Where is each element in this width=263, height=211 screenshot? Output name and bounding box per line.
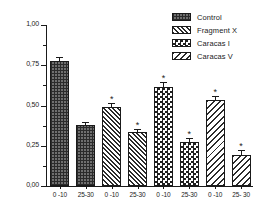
legend-item-fragment-x[interactable]: Fragment X	[172, 24, 237, 36]
legend-item-caracas-i[interactable]: Caracas I	[172, 37, 237, 49]
x-tick-label: 25-30	[181, 191, 197, 198]
x-tick-label: 25-30	[78, 191, 94, 198]
x-tick-label: 0 -10	[156, 191, 170, 198]
legend-swatch-icon	[172, 39, 191, 47]
y-tick-mark	[41, 186, 46, 187]
x-tick-label: 25-30	[130, 191, 146, 198]
bar-caracas-v-0-10	[206, 100, 225, 186]
x-tick-mark	[138, 186, 139, 189]
error-bar-cap	[82, 122, 89, 123]
significance-marker: *	[136, 122, 140, 128]
error-bar-stem	[59, 58, 60, 61]
significance-marker: *	[162, 75, 166, 81]
x-tick-mark	[163, 186, 164, 189]
legend-swatch-icon	[172, 26, 191, 34]
y-tick-label: 0,00	[26, 181, 39, 188]
error-bar-stem	[137, 130, 138, 132]
x-tick-label: 0 -10	[53, 191, 67, 198]
error-bar-stem	[241, 151, 242, 154]
significance-marker: *	[213, 89, 217, 95]
bar-control-25-30	[76, 125, 95, 186]
y-tick-label: 0,50	[26, 101, 39, 108]
chart-legend: ControlFragment XCaracas ICaracas V	[172, 11, 237, 63]
x-tick-mark	[112, 186, 113, 189]
x-tick-mark	[86, 186, 87, 189]
legend-item-label: Fragment X	[197, 26, 237, 35]
error-bar-stem	[215, 97, 216, 100]
bar-caracas-i-25-30	[180, 142, 199, 186]
bar-fragment-x-25-30	[128, 132, 147, 186]
x-axis-line	[46, 186, 253, 187]
y-tick-label: 0,75	[26, 60, 39, 67]
error-bar-stem	[189, 139, 190, 142]
x-tick-mark	[60, 186, 61, 189]
error-bar-cap	[56, 57, 63, 58]
error-bar-stem	[85, 123, 86, 125]
bar-control-0-10	[50, 61, 69, 186]
x-tick-mark	[189, 186, 190, 189]
legend-swatch-icon	[172, 13, 191, 21]
legend-item-label: Caracas V	[197, 52, 233, 61]
x-tick-label: 0 -10	[105, 191, 119, 198]
y-tick-label: 0,25	[26, 141, 39, 148]
error-bar-stem	[163, 83, 164, 86]
bar-caracas-i-0-10	[154, 87, 173, 186]
x-tick-mark	[215, 186, 216, 189]
error-bar-stem	[111, 104, 112, 108]
x-tick-mark	[241, 186, 242, 189]
chart-figure: F mean 0,000,250,500,751,00 ****** 0 -10…	[0, 0, 263, 211]
x-tick-label: 25- 30	[232, 191, 250, 198]
legend-swatch-icon	[172, 52, 191, 60]
bar-fragment-x-0-10	[102, 107, 121, 186]
significance-marker: *	[110, 96, 114, 102]
legend-item-caracas-v[interactable]: Caracas V	[172, 50, 237, 62]
y-tick-0-00: 0,00	[41, 186, 46, 187]
bar-caracas-v-25-30	[232, 155, 251, 186]
legend-item-label: Control	[197, 13, 222, 22]
y-tick-label: 1,00	[26, 20, 39, 27]
x-tick-label: 0 -10	[208, 191, 222, 198]
legend-item-label: Caracas I	[197, 39, 230, 48]
significance-marker: *	[239, 143, 243, 149]
legend-item-control[interactable]: Control	[172, 11, 237, 23]
significance-marker: *	[188, 131, 192, 137]
